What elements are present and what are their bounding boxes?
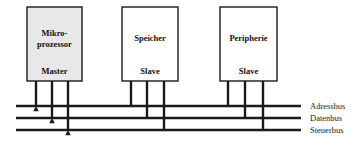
diagram-canvas: Mikro-prozessorMasterSpeicherSlavePeriph… [0, 0, 363, 146]
bus-label-steuerbus: Steuerbus [310, 125, 344, 135]
bus-lines-group [16, 106, 301, 130]
unit-peripherie[interactable]: PeripherieSlave [220, 7, 277, 81]
unit-role-speicher: Slave [140, 66, 160, 76]
unit-role-mikroprozessor: Master [42, 66, 68, 76]
unit-title-mikroprozessor: Mikro- [42, 28, 68, 38]
unit-boxes-group: Mikro-prozessorMasterSpeicherSlavePeriph… [27, 7, 277, 81]
bus-labels-group: AdressbusDatenbusSteuerbus [310, 101, 345, 135]
bus-label-datenbus: Datenbus [310, 113, 342, 123]
unit-mikroprozessor[interactable]: Mikro-prozessorMaster [27, 7, 82, 81]
unit-title-peripherie: Peripherie [229, 33, 267, 43]
unit-role-peripherie: Slave [239, 66, 259, 76]
bus-label-adressbus: Adressbus [310, 101, 345, 111]
unit-speicher[interactable]: SpeicherSlave [122, 7, 178, 81]
unit-title-speicher: Speicher [134, 33, 166, 43]
bus-system-diagram: Mikro-prozessorMasterSpeicherSlavePeriph… [0, 0, 363, 146]
unit-title-line2-mikroprozessor: prozessor [37, 39, 72, 49]
